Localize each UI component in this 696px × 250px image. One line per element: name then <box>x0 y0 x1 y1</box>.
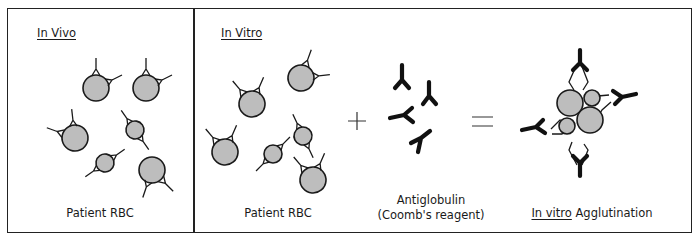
diagram-graphics <box>0 0 696 250</box>
equals-operator <box>472 117 493 126</box>
rbc-cell <box>42 103 96 154</box>
antiglobulin-group <box>390 65 436 152</box>
in-vivo-rbc-group <box>42 58 182 210</box>
plus-operator <box>348 112 366 130</box>
in-vitro-rbc-group <box>196 45 342 198</box>
agglutination-cluster <box>522 50 636 176</box>
